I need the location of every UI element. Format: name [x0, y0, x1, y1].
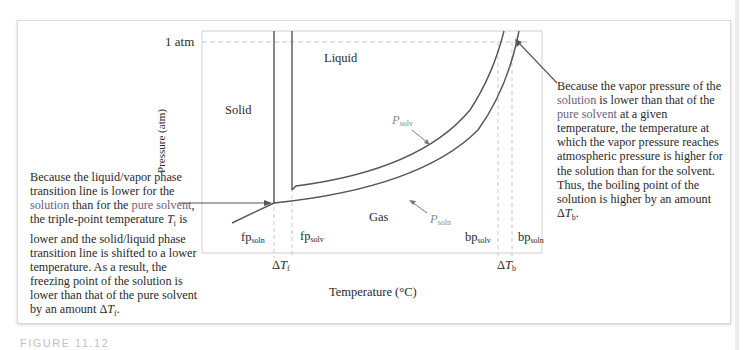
fp-soln-label: fpsoln [241, 230, 265, 245]
region-label-solid: Solid [225, 103, 251, 118]
delta-tf-label: ΔTf [272, 258, 290, 273]
right-note-arrow [517, 41, 557, 83]
p-soln-label: Psoln [430, 212, 451, 227]
bp-soln-label: bpsoln [518, 230, 544, 245]
y-axis-label: Pressure (atm) [155, 109, 167, 173]
delta-tb-label: ΔTb [497, 258, 516, 273]
sublimation-curve [232, 203, 274, 223]
fp-solv-label: fpsolv [300, 229, 324, 244]
figure-caption: FIGURE 11.12 [20, 337, 109, 349]
region-label-gas: Gas [369, 210, 388, 225]
bp-solv-label: bpsolv [465, 230, 491, 245]
boiling-point-explanation: Because the vapor pressure of the soluti… [557, 79, 727, 225]
one-atm-tick-label: 1 atm [165, 34, 194, 50]
x-axis-label: Temperature (°C) [329, 285, 417, 300]
p-soln-pointer [412, 202, 427, 213]
freezing-point-explanation: Because the liquid/vapor phase transitio… [30, 170, 200, 322]
region-label-liquid: Liquid [324, 51, 357, 66]
p-solv-label: Psolv [392, 113, 413, 128]
